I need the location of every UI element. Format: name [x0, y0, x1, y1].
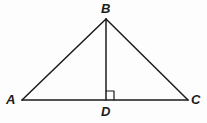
vertex-label-b: B	[101, 2, 110, 15]
vertex-label-d: D	[101, 105, 110, 118]
side-AB	[22, 19, 106, 100]
geometry-figure: A B C D	[0, 0, 207, 123]
vertex-label-a: A	[6, 93, 15, 106]
side-BC	[106, 19, 188, 100]
vertex-label-c: C	[191, 93, 200, 106]
right-angle-at-D-icon	[106, 91, 114, 100]
